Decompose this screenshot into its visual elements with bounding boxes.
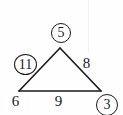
- left-edge-label: 11: [14, 54, 37, 75]
- triangle-diagram: 5 11 8 6 9 3: [0, 0, 123, 115]
- apex-vertex-label: 5: [51, 23, 71, 43]
- right-edge-label: 8: [81, 56, 92, 71]
- bottom-edge-label: 9: [53, 94, 64, 109]
- bottom-right-vertex-label: 3: [96, 94, 118, 115]
- bottom-left-vertex-label: 6: [10, 94, 21, 109]
